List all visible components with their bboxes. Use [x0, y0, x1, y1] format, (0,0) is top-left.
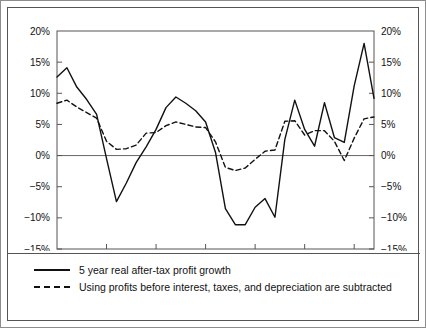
y-axis-tick-label: −5%	[30, 181, 50, 192]
y-axis-tick-label-right: 15%	[381, 57, 401, 68]
y-axis-tick-label: 0%	[36, 150, 51, 161]
y-axis-tick-label: −15%	[24, 244, 50, 251]
plot-area: −15%−15%−10%−10%−5%−5%0%0%5%5%10%10%15%1…	[8, 8, 420, 251]
chart-legend: 5 year real after-tax profit growth Usin…	[8, 253, 420, 320]
y-axis-tick-label-right: 0%	[381, 150, 396, 161]
y-axis-tick-label-right: −15%	[381, 244, 407, 251]
chart-figure: −15%−15%−10%−10%−5%−5%0%0%5%5%10%10%15%1…	[0, 0, 426, 328]
series-line-1	[57, 43, 374, 224]
y-axis-tick-label-right: 5%	[381, 119, 396, 130]
y-axis-tick-label: 10%	[30, 88, 50, 99]
y-axis-tick-label: 15%	[30, 57, 50, 68]
legend-key-dashed-line-icon	[33, 281, 71, 293]
legend-key-solid-line-icon	[33, 264, 71, 276]
y-axis-tick-label: −10%	[24, 212, 50, 223]
y-axis-tick-label-right: −10%	[381, 212, 407, 223]
y-axis-tick-label: 5%	[36, 119, 51, 130]
legend-label-solid: 5 year real after-tax profit growth	[79, 264, 231, 276]
chart-inner-border: −15%−15%−10%−10%−5%−5%0%0%5%5%10%10%15%1…	[7, 7, 419, 321]
line-chart-svg: −15%−15%−10%−10%−5%−5%0%0%5%5%10%10%15%1…	[8, 8, 420, 251]
y-axis-tick-label: 20%	[30, 26, 50, 37]
y-axis-tick-label-right: 10%	[381, 88, 401, 99]
legend-item-dashed: Using profits before interest, taxes, an…	[33, 281, 392, 293]
y-axis-tick-label-right: −5%	[381, 181, 401, 192]
y-axis-tick-label-right: 20%	[381, 26, 401, 37]
legend-item-solid: 5 year real after-tax profit growth	[33, 264, 231, 276]
legend-label-dashed: Using profits before interest, taxes, an…	[79, 281, 392, 293]
